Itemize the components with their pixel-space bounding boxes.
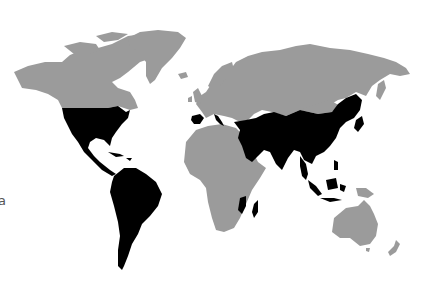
region-philippines [334, 160, 338, 170]
region-caribbean [108, 152, 132, 161]
region-japan [354, 116, 364, 132]
region-papua [356, 188, 374, 198]
region-italy [214, 114, 224, 126]
region-iberia [191, 114, 204, 124]
region-kamchatka [376, 80, 386, 100]
region-madagascar [252, 200, 258, 218]
gray-land-group [14, 30, 410, 256]
region-new-zealand [388, 240, 400, 256]
region-indonesia [308, 178, 346, 202]
region-tasmania [366, 248, 370, 252]
region-iceland [178, 72, 188, 79]
world-map [0, 0, 439, 308]
region-australia [332, 200, 378, 246]
region-south-america [110, 168, 162, 270]
region-uk-ireland [188, 88, 202, 104]
region-usa-mexico [62, 106, 130, 176]
